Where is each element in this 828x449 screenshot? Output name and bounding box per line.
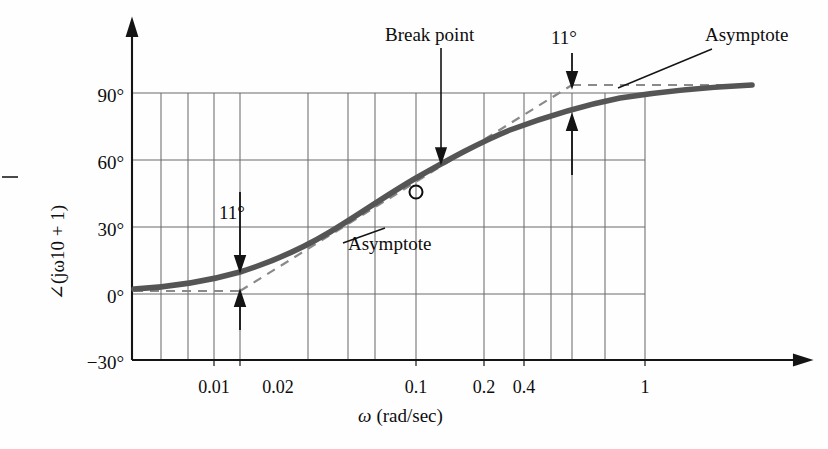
x-tick-label-0p01: 0.01 (184, 377, 244, 398)
y-tick-label-0: 0° (78, 286, 124, 308)
x-tick-label-0p4: 0.4 (500, 377, 548, 398)
annotation-error-lower: 11° (219, 202, 245, 224)
asymptote-upper-leader (618, 49, 712, 88)
x-axis-title: ω(rad/sec) (358, 405, 443, 427)
annotation-break-point: Break point (385, 24, 474, 46)
annotation-error-upper: 11° (551, 27, 577, 49)
x-axis-title-symbol: ω (358, 405, 371, 426)
x-tick-label-1: 1 (623, 377, 667, 398)
axis-lines (127, 20, 810, 365)
x-tick-label-0p02: 0.02 (248, 377, 308, 398)
y-tick-label-30: 30° (78, 219, 124, 241)
phase-curve (134, 85, 752, 289)
y-tick-label-90: 90° (78, 85, 124, 107)
asymptote-lines (134, 85, 752, 291)
break-point-leader (436, 48, 446, 163)
figure-root: 90° 60° 30° 0° −30° 0.01 0.02 0.1 0.2 0.… (0, 0, 828, 449)
x-axis-title-units: (rad/sec) (376, 405, 442, 426)
error-arrow-upper-pair (567, 53, 577, 175)
y-tick-label-neg30: −30° (60, 352, 124, 374)
annotation-asymptote-upper: Asymptote (705, 24, 788, 46)
y-tick-label-60: 60° (78, 152, 124, 174)
x-tick-label-0p1: 0.1 (392, 377, 440, 398)
y-axis-title: ∠(jω10 + 1) (46, 205, 69, 300)
annotation-asymptote-lower: Asymptote (348, 233, 431, 255)
